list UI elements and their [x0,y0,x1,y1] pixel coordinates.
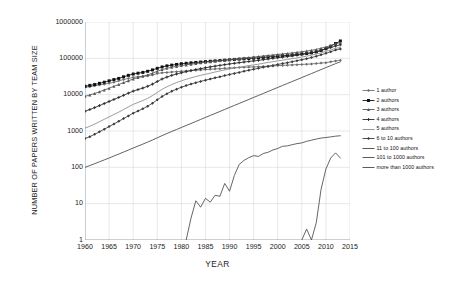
legend-item-label: 101 to 1000 authors [377,153,425,163]
legend-item[interactable]: 2 authors [362,96,462,106]
legend-key-icon [362,144,375,153]
legend-key-icon [362,153,375,162]
legend-item-label: 3 authors [377,105,400,115]
legend-item-label: 1 author [377,86,397,96]
series-more-than-1000-authors [302,153,341,240]
series-101-to-1000-authors [186,136,340,240]
x-axis-title: YEAR [85,259,350,269]
legend-key-icon [362,86,375,95]
series-1-author [85,59,342,89]
legend-item-label: more than 1000 authors [377,163,434,173]
legend-item-label: 5 authors [377,124,400,134]
chart-legend: 1 author2 authors3 authors4 authors5 aut… [362,86,462,172]
legend-item[interactable]: 1 author [362,86,462,96]
y-tick-label: 10000 [31,90,83,98]
legend-item[interactable]: 11 to 100 authors [362,144,462,154]
legend-item[interactable]: 4 authors [362,115,462,125]
y-tick-label: 10 [31,199,83,207]
y-tick-label: 100 [31,163,83,171]
y-tick-label: 100000 [31,54,83,62]
legend-item-label: 11 to 100 authors [377,144,419,154]
legend-item-label: 4 authors [377,115,400,125]
legend-key-icon [362,96,375,105]
legend-key-icon [362,125,375,134]
legend-key-icon [362,163,375,172]
x-axis-tick-labels: 1960196519701975198019851990199520002005… [85,243,350,257]
legend-key-icon [362,134,375,143]
legend-key-icon [362,115,375,124]
plot-area [85,22,350,240]
legend-key-icon [362,105,375,114]
legend-item[interactable]: 3 authors [362,105,462,115]
legend-item[interactable]: 101 to 1000 authors [362,153,462,163]
legend-item[interactable]: more than 1000 authors [362,163,462,173]
legend-item[interactable]: 6 to 10 authors [362,134,462,144]
y-tick-label: 1000 [31,127,83,135]
legend-item-label: 2 authors [377,96,400,106]
chart-figure: NUMBER OF PAPERS WRITTEN BY TEAM SIZE 11… [0,0,464,286]
y-tick-label: 1000000 [31,18,83,26]
chart-canvas [85,22,350,240]
series-3-authors [85,41,342,98]
x-tick-label: 2015 [335,243,365,251]
grid-lines [85,22,350,240]
y-axis-tick-labels: 1101001000100001000001000000 [30,22,83,240]
legend-item-label: 6 to 10 authors [377,134,413,144]
legend-item[interactable]: 5 authors [362,124,462,134]
